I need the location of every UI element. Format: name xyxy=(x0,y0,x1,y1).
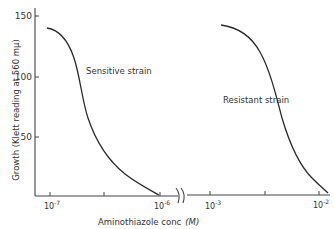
resistant-strain-label: Resistant strain xyxy=(223,95,289,105)
growth-chart: 150 100 50 10-7 10-6 10-3 10-2 Growth (K… xyxy=(0,0,334,229)
sensitive-strain-curve xyxy=(47,28,159,195)
axis-break-icon-2 xyxy=(181,188,184,203)
x-axis-title: Aminothiazole conc(M) xyxy=(98,217,199,227)
y-axis-title: Growth (Klett reading at 560 mμ) xyxy=(11,39,21,180)
x-tick-label-1e-2: 10-2 xyxy=(313,198,329,210)
y-tick-label-150: 150 xyxy=(15,11,32,21)
x-tick-label-1e-3: 10-3 xyxy=(205,199,221,211)
x-tick-label-1e-6: 10-6 xyxy=(154,199,170,211)
y-tick-label-50: 50 xyxy=(21,132,33,142)
resistant-strain-curve xyxy=(221,25,328,193)
x-tick-label-1e-7: 10-7 xyxy=(44,199,60,211)
sensitive-strain-label: Sensitive strain xyxy=(86,66,152,76)
